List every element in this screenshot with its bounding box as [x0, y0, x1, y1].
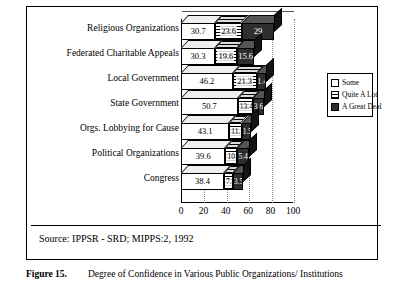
segment-some-congress[interactable]: 38.4	[181, 173, 224, 190]
segment-great-congress[interactable]: 3.5	[233, 173, 243, 190]
x-axis-tick-labels: 0 20 40 60 80 100	[181, 205, 293, 219]
figure-caption: Figure 15.Degree of Confidence in Variou…	[26, 268, 386, 280]
segment-great-federated-charitable-appeals[interactable]: 15.6	[237, 48, 255, 65]
category-label-political-organizations: Political Organizations	[31, 148, 179, 158]
xtick-60: 60	[238, 206, 258, 216]
legend-swatch-quite-a-lot-icon	[331, 91, 339, 99]
segment-quite-congress[interactable]: 7.9	[224, 173, 233, 190]
xtick-100: 100	[283, 206, 303, 216]
segment-some-political-organizations[interactable]: 39.6	[181, 148, 225, 165]
legend-swatch-some-icon	[331, 79, 339, 87]
xtick-40: 40	[216, 206, 236, 216]
category-label-religious-organizations: Religious Organizations	[31, 23, 179, 33]
segment-quite-religious-organizations[interactable]: 23.6	[215, 23, 241, 40]
segment-great-local-government[interactable]: 1.4	[257, 73, 267, 90]
legend-swatch-a-great-deal-icon	[331, 103, 339, 111]
legend-item-some[interactable]: Some	[331, 77, 370, 88]
chart-plot-area: Religious Organizations Federated Charit…	[31, 11, 375, 217]
source-note: Source: IPPSR - SRD; MIPPS:2, 1992	[39, 233, 193, 245]
category-label-federated-charitable-appeals: Federated Charitable Appeals	[31, 48, 179, 58]
gridline-100	[294, 19, 295, 203]
segment-quite-political-organizations[interactable]: 10.7	[225, 148, 237, 165]
figure-caption-text: Degree of Confidence in Various Public O…	[88, 269, 343, 279]
segment-some-federated-charitable-appeals[interactable]: 30.3	[181, 48, 215, 65]
segment-some-state-government[interactable]: 50.7	[181, 98, 238, 115]
segment-some-local-government[interactable]: 46.2	[181, 73, 233, 90]
category-label-orgs-lobbying-for-cause: Orgs. Lobbying for Cause	[31, 123, 179, 133]
bars-region: 30.7 23.6 29 30.3 19.6 15.6 46.2	[181, 19, 319, 211]
xtick-0: 0	[171, 206, 191, 216]
chart-legend: Some Quite A Lot A Great Deal	[327, 73, 373, 117]
gridline-80	[272, 19, 273, 203]
segment-quite-orgs-lobbying-for-cause[interactable]: 11.1	[229, 123, 241, 140]
segment-some-orgs-lobbying-for-cause[interactable]: 43.1	[181, 123, 229, 140]
xtick-20: 20	[193, 206, 213, 216]
legend-label-some: Some	[342, 79, 359, 87]
legend-label-quite-a-lot: Quite A Lot	[342, 91, 377, 99]
category-label-state-government: State Government	[31, 98, 179, 108]
segment-quite-federated-charitable-appeals[interactable]: 19.6	[215, 48, 237, 65]
segment-some-religious-organizations[interactable]: 30.7	[181, 23, 215, 40]
category-label-congress: Congress	[31, 173, 179, 183]
segment-quite-state-government[interactable]: 13.4	[238, 98, 253, 115]
category-label-local-government: Local Government	[31, 73, 179, 83]
legend-item-a-great-deal[interactable]: A Great Deal	[331, 101, 370, 112]
category-axis-labels: Religious Organizations Federated Charit…	[31, 23, 179, 203]
figure-frame: Religious Organizations Federated Charit…	[26, 6, 378, 260]
source-divider	[31, 225, 381, 226]
legend-label-a-great-deal: A Great Deal	[342, 103, 382, 111]
segment-quite-local-government[interactable]: 21.3	[233, 73, 257, 90]
figure-caption-label: Figure 15.	[26, 268, 88, 280]
legend-item-quite-a-lot[interactable]: Quite A Lot	[331, 89, 370, 100]
xtick-80: 80	[261, 206, 281, 216]
